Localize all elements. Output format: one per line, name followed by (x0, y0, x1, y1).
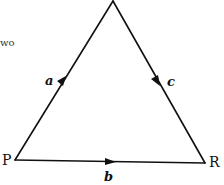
vertex-label-r: R (209, 155, 220, 169)
arrow-c-icon (151, 75, 160, 86)
edge-label-b: b (104, 170, 113, 183)
edge-label-a: a (45, 74, 53, 87)
arrow-b-icon (105, 158, 116, 165)
arrow-a-icon (57, 76, 66, 86)
text-fragment: wo (0, 38, 15, 48)
edge-label-c: c (167, 75, 175, 88)
vector-triangle-diagram (0, 0, 224, 185)
vertex-label-p: P (2, 153, 11, 167)
